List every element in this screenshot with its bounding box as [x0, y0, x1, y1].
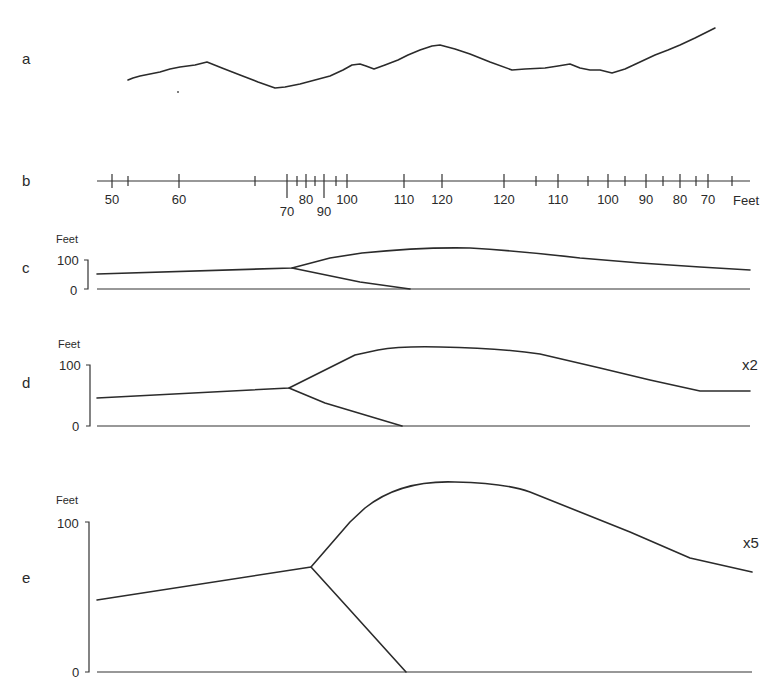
- panel-letter-b: b: [22, 172, 30, 189]
- panel-c: c Feet 100 0: [22, 233, 750, 298]
- y-axis-bracket: [86, 365, 90, 426]
- tick-label: 50: [105, 192, 119, 207]
- panel-d: d Feet 100 0 x2: [22, 338, 758, 434]
- y-axis-bottom: 0: [70, 283, 77, 298]
- upper-surface-line: [97, 347, 750, 398]
- tick-label: 70: [280, 204, 294, 219]
- figure-canvas: a b 5060708090100110120120110100908070 F…: [0, 0, 779, 695]
- vertical-exaggeration-label: x2: [742, 356, 758, 373]
- surface-profile-line: [128, 28, 715, 88]
- tick-label: 100: [597, 192, 619, 207]
- panel-b: b 5060708090100110120120110100908070 Fee…: [22, 172, 759, 219]
- upper-surface-line: [97, 482, 752, 600]
- panel-letter-d: d: [22, 374, 30, 391]
- vertical-exaggeration-label: x5: [743, 534, 759, 551]
- tick-label: 100: [336, 192, 358, 207]
- panel-letter-c: c: [22, 259, 30, 276]
- tick-label: 90: [317, 204, 331, 219]
- panel-letter-e: e: [22, 569, 30, 586]
- lower-branch-line: [289, 388, 402, 426]
- y-axis-top: 100: [57, 516, 79, 531]
- y-axis-unit: Feet: [58, 338, 80, 350]
- upper-surface-line: [97, 248, 750, 274]
- axis-unit-label: Feet: [733, 193, 759, 208]
- speck: [177, 91, 179, 93]
- tick-label: 120: [493, 192, 515, 207]
- tick-label: 80: [299, 192, 313, 207]
- y-axis-bracket: [85, 522, 89, 672]
- tick-label: 80: [673, 192, 687, 207]
- y-axis-unit: Feet: [56, 233, 78, 245]
- tick-label: 90: [639, 192, 653, 207]
- y-axis-top: 100: [57, 253, 79, 268]
- y-axis-unit: Feet: [56, 494, 78, 506]
- panel-a: a: [22, 28, 715, 93]
- lower-branch-line: [292, 268, 410, 289]
- lower-branch-line: [311, 567, 406, 672]
- panel-letter-a: a: [22, 50, 31, 67]
- y-axis-bracket: [84, 260, 88, 289]
- panel-e: e Feet 100 0 x5: [22, 482, 759, 680]
- y-axis-bottom: 0: [72, 419, 79, 434]
- tick-label: 110: [548, 192, 569, 207]
- tick-label: 120: [431, 192, 453, 207]
- tick-label: 70: [701, 192, 715, 207]
- y-axis-bottom: 0: [72, 665, 79, 680]
- y-axis-top: 100: [59, 358, 81, 373]
- tick-label: 60: [172, 192, 186, 207]
- tick-label: 110: [394, 192, 415, 207]
